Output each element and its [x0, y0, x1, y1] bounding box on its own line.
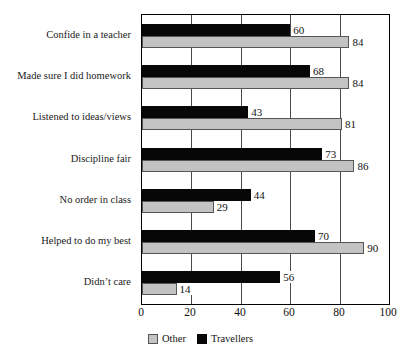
bar-value-label: 73: [324, 148, 337, 160]
bar-travellers: 73: [142, 148, 322, 160]
bar-other: 86: [142, 160, 354, 172]
bar-value-label: 84: [351, 77, 364, 89]
bar-travellers: 44: [142, 189, 251, 201]
bar-value-label: 86: [356, 160, 369, 172]
x-tick-label: 60: [283, 305, 295, 319]
legend-swatch-other: [148, 334, 158, 344]
category-label: Listened to ideas/views: [32, 111, 131, 123]
bar-chart: Confide in a teacherMade sure I did home…: [0, 0, 410, 353]
x-tick-label: 0: [138, 305, 144, 319]
bar-travellers: 68: [142, 65, 310, 77]
legend-item-other[interactable]: Other: [148, 332, 186, 345]
category-label: Didn’t care: [84, 276, 131, 288]
bar-other: 84: [142, 36, 349, 48]
bar-value-label: 68: [312, 65, 325, 77]
bar-travellers: 70: [142, 230, 315, 242]
bar-value-label: 60: [292, 24, 305, 36]
bar-other: 90: [142, 242, 364, 254]
plot-area: 6084688443817386442970905614: [141, 14, 390, 305]
category-label: No order in class: [60, 194, 131, 206]
category-label: Helped to do my best: [41, 235, 131, 247]
bar-value-label: 29: [216, 201, 229, 213]
bar-value-label: 44: [253, 189, 266, 201]
bar-other: 81: [142, 118, 342, 130]
bar-value-label: 56: [282, 271, 295, 283]
legend-item-travellers[interactable]: Travellers: [197, 332, 253, 345]
legend-label: Travellers: [211, 332, 253, 345]
bar-travellers: 56: [142, 271, 280, 283]
bar-other: 84: [142, 77, 349, 89]
bar-travellers: 43: [142, 106, 248, 118]
x-tick-label: 20: [184, 305, 196, 319]
chart-legend: OtherTravellers: [148, 332, 253, 345]
bar-value-label: 43: [250, 106, 263, 118]
bar-value-label: 84: [351, 36, 364, 48]
x-tick-label: 80: [333, 305, 345, 319]
bar-value-label: 14: [179, 283, 192, 295]
category-label: Confide in a teacher: [46, 29, 131, 41]
bar-value-label: 70: [317, 230, 330, 242]
x-tick-label: 40: [234, 305, 246, 319]
legend-label: Other: [162, 332, 186, 345]
x-tick-label: 100: [379, 305, 396, 319]
category-label: Discipline fair: [71, 153, 131, 165]
bar-value-label: 81: [344, 118, 357, 130]
bar-other: 29: [142, 201, 214, 213]
category-label: Made sure I did homework: [17, 70, 131, 82]
category-axis: Confide in a teacherMade sure I did home…: [0, 14, 136, 303]
x-axis-ticks: 020406080100: [141, 305, 389, 323]
legend-swatch-travellers: [197, 334, 207, 344]
bar-value-label: 90: [366, 242, 379, 254]
bar-travellers: 60: [142, 24, 290, 36]
bar-other: 14: [142, 283, 177, 295]
